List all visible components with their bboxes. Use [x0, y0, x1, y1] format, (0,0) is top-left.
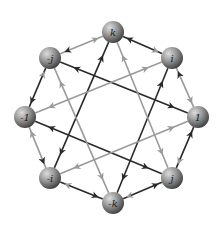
- node--k: -k: [102, 192, 124, 214]
- edge-j-k: [117, 42, 168, 168]
- node-label: -j: [47, 53, 53, 64]
- edge--i-1: [60, 121, 188, 174]
- node-label: -1: [20, 112, 30, 123]
- node-i: i: [161, 47, 183, 69]
- node-label: -k: [108, 198, 117, 209]
- edge--i--1: [29, 127, 46, 168]
- node-k: k: [102, 21, 124, 43]
- edge--k-i: [117, 68, 168, 193]
- graph-canvas: ki1j-k-i-1-j: [0, 0, 222, 231]
- node-label: k: [110, 27, 116, 38]
- node-label: i: [170, 53, 173, 64]
- edge-i-1: [176, 68, 193, 107]
- edge--j--1: [29, 68, 45, 107]
- node-1: 1: [187, 106, 209, 128]
- node--i: -i: [39, 167, 61, 189]
- node-label: 1: [195, 112, 201, 123]
- node-label: -i: [47, 173, 54, 184]
- node-j: j: [161, 167, 183, 189]
- cayley-graph: ki1j-k-i-1-j: [0, 0, 222, 231]
- edge-1--j: [60, 62, 188, 113]
- node--1: -1: [14, 106, 36, 128]
- node--j: -j: [39, 47, 61, 69]
- nodes-layer: ki1j-k-i-1-j: [14, 21, 209, 214]
- edge-i-k: [123, 36, 162, 53]
- edge--i--k: [60, 182, 103, 199]
- edge--j-k: [60, 36, 103, 54]
- edge--k-j: [123, 182, 162, 198]
- edge-j-1: [176, 127, 193, 168]
